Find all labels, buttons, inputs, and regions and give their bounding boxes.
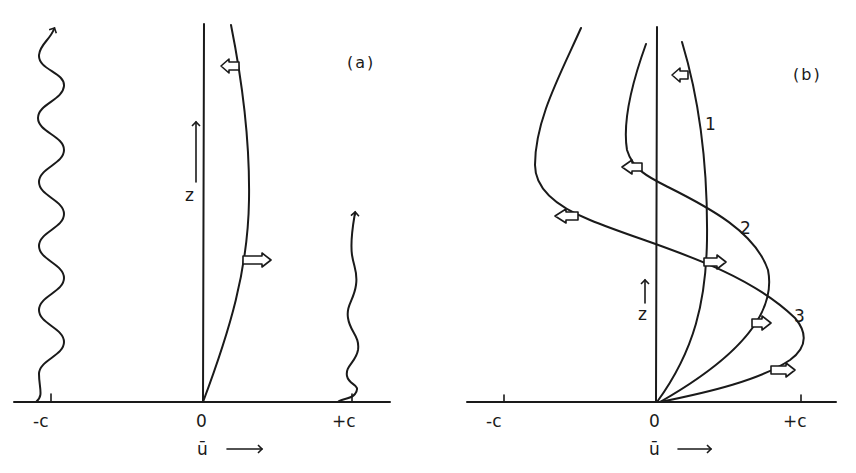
curve-label-2: 2: [740, 218, 751, 238]
z-axis-label: z: [185, 185, 194, 205]
hollow-arrow-left-icon: [555, 209, 578, 223]
z-axis-label-b: z: [638, 304, 647, 324]
hollow-arrow-left-icon: [221, 59, 239, 73]
tick-label-zero: 0: [196, 411, 207, 431]
z-axis-line-b: [656, 27, 657, 402]
hollow-arrow-right-icon: [243, 253, 271, 267]
u-bar-axis-label: ū: [197, 439, 208, 459]
tick-label-plus-c: +c: [332, 411, 356, 431]
wavy-line-minus-c: [36, 29, 64, 402]
panel-b-label: (b): [793, 65, 822, 84]
tick-label-minus-c: -c: [33, 411, 48, 431]
wave-arrow-up-icon: [54, 28, 55, 29]
panel-a-label: (a): [347, 53, 375, 72]
hollow-arrow-right-icon: [752, 316, 771, 330]
tick-label-zero-b: 0: [649, 411, 660, 431]
u-bar-axis-label-b: ū: [649, 439, 660, 459]
tick-label-plus-c-b: +c: [783, 411, 807, 431]
curve-label-3: 3: [794, 306, 805, 326]
wave-mean-flow-figure: z (a) -c 0 +c ū 1 2: [0, 0, 856, 473]
wavy-line-plus-c: [338, 213, 358, 402]
velocity-profile-curve: [203, 25, 249, 402]
panel-a: z (a) -c 0 +c ū: [14, 24, 390, 459]
hollow-arrow-left-icon: [622, 160, 642, 174]
profile-curve-1: [657, 42, 707, 402]
z-axis-line: [203, 24, 204, 402]
tick-label-minus-c-b: -c: [486, 411, 501, 431]
curve-label-1: 1: [705, 114, 716, 134]
panel-b: 1 2 3 z (b) -c 0 +c ū: [467, 27, 836, 459]
hollow-arrow-left-icon: [672, 68, 688, 82]
